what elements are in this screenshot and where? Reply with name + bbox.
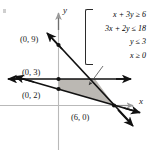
vertex-dot-0-9 bbox=[56, 43, 60, 47]
system-of-inequalities: x + 3y ≥ 6 3x + 2y ≤ 18 y ≤ 3 x ≥ 0 bbox=[92, 10, 148, 64]
vertex-dot-0-2 bbox=[56, 87, 60, 91]
inequality-row-4: x ≥ 0 bbox=[92, 51, 148, 65]
point-label-0-9: (0, 9) bbox=[20, 35, 38, 44]
y-axis-label: y bbox=[63, 6, 67, 15]
x-axis-label: x bbox=[139, 97, 143, 106]
vertex-dot-6-0 bbox=[112, 103, 116, 107]
inequality-system-figure: y x (0, 9) (0, 3) (0, 2) (6, 0) x + 3y ≥… bbox=[0, 0, 149, 150]
inequality-row-1: x + 3y ≥ 6 bbox=[92, 10, 148, 24]
boundary-line-3x2y18-lower-arrow bbox=[118, 110, 133, 126]
inequality-1-text: x + 3y ≥ 6 bbox=[113, 10, 146, 19]
inequality-2-text: 3x + 2y ≤ 18 bbox=[105, 24, 146, 33]
point-label-0-2: (0, 2) bbox=[22, 91, 40, 100]
inequality-row-3: y ≤ 3 bbox=[92, 37, 148, 51]
point-label-6-0: (6, 0) bbox=[71, 113, 89, 122]
vertex-dot-0-3 bbox=[56, 77, 60, 81]
boundary-line-x3y6-right-arrow bbox=[124, 108, 140, 113]
inequality-row-2: 3x + 2y ≤ 18 bbox=[92, 24, 148, 38]
inequality-4-text: x ≥ 0 bbox=[130, 51, 146, 60]
point-label-0-3: (0, 3) bbox=[22, 68, 40, 77]
inequality-3-text: y ≤ 3 bbox=[130, 37, 146, 46]
